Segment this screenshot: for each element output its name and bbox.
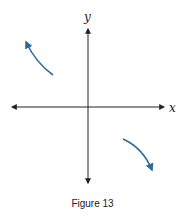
curve-branch-lower-right — [123, 139, 152, 170]
y-axis-label: y — [83, 10, 91, 24]
figure-caption: Figure 13 — [0, 198, 185, 209]
graph: x y — [0, 0, 185, 217]
curve-branch-upper-left — [26, 42, 53, 75]
x-axis-label: x — [169, 101, 176, 115]
